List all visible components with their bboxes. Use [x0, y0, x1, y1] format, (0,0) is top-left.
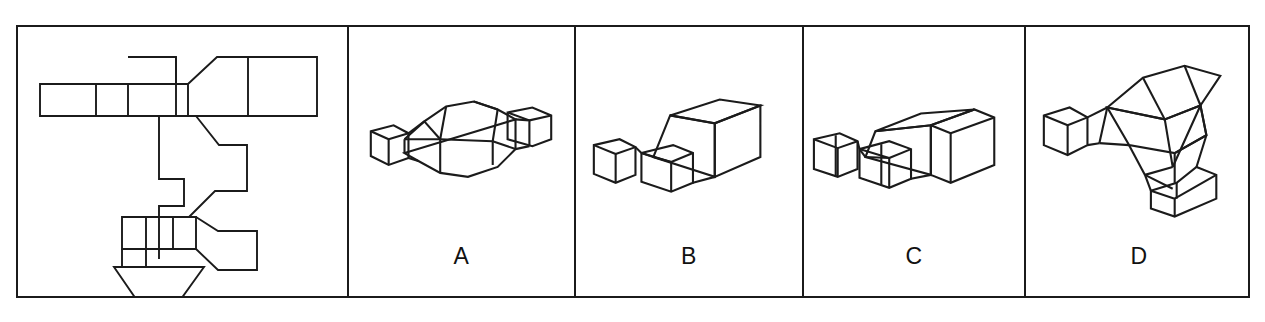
- option-panel-d[interactable]: D: [1024, 27, 1252, 296]
- option-label-b: B: [576, 245, 802, 268]
- option-label-a: A: [349, 245, 574, 268]
- option-panel-a[interactable]: A: [347, 27, 574, 296]
- option-panel-b[interactable]: B: [574, 27, 802, 296]
- question-frame: A: [16, 25, 1250, 298]
- net-panel: [18, 27, 347, 296]
- option-label-c: C: [804, 245, 1024, 268]
- option-panel-c[interactable]: C: [802, 27, 1024, 296]
- question-image: A: [0, 0, 1265, 322]
- net-drawing: [18, 27, 347, 296]
- option-label-d: D: [1026, 245, 1252, 268]
